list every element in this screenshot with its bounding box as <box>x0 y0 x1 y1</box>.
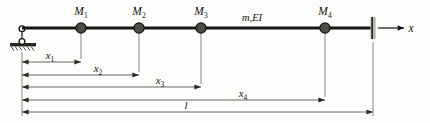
dimension-x4: x4 <box>22 87 325 103</box>
dimension-label-x2-subscript: 2 <box>99 68 103 77</box>
dimension-arrow-left-x1 <box>22 60 29 65</box>
dimension-x2: x2 <box>22 62 139 78</box>
dimension-label-x3-subscript: 3 <box>161 80 165 89</box>
dimension-label-x1-subscript: 1 <box>51 55 55 64</box>
mass-label-1-subscript: 1 <box>84 11 88 20</box>
dimension-x1: x1 <box>22 49 81 65</box>
dimension-arrow-right-x2 <box>132 73 139 78</box>
dimension-arrow-right-x1 <box>74 60 81 65</box>
dimension-x3: x3 <box>22 74 201 90</box>
dimension-label-x4-subscript: 4 <box>244 93 248 102</box>
lower-roller-circle <box>19 39 25 45</box>
diagram-canvas: x m,EI M1 M2 M3 <box>0 0 430 123</box>
mass-circle-1 <box>76 23 86 33</box>
ground-hatching <box>11 46 34 50</box>
dimension-arrow-left-x4 <box>22 98 29 103</box>
mass-node-3: M3 <box>193 5 208 84</box>
mass-circle-4 <box>320 23 330 33</box>
dimension-label-l: l <box>184 99 187 111</box>
right-support-fixed-wall <box>371 17 376 39</box>
dimension-label-x1: x1 <box>45 49 55 64</box>
dimension-arrow-right-x4 <box>318 98 325 103</box>
mass-circle-3 <box>196 23 206 33</box>
mass-node-1: M1 <box>73 5 88 59</box>
dimension-label-x3: x3 <box>155 74 165 89</box>
mass-label-4-subscript: 4 <box>328 11 332 20</box>
beam-property-label: m,EI <box>242 12 263 23</box>
mass-circle-2 <box>134 23 144 33</box>
mass-node-2: M2 <box>131 5 146 72</box>
dimension-arrow-right-x3 <box>194 85 201 90</box>
x-axis-arrow <box>378 25 404 30</box>
mass-label-4: M4 <box>317 5 332 20</box>
dimension-arrow-right-l <box>366 110 373 115</box>
mass-label-3-subscript: 3 <box>204 11 208 20</box>
beam-diagram-figure: x m,EI M1 M2 M3 <box>0 0 430 123</box>
x-axis-label: x <box>407 22 414 34</box>
mass-label-1: M1 <box>73 5 88 20</box>
x-axis-arrowhead <box>398 25 404 30</box>
wall-face <box>371 17 376 39</box>
mass-label-3: M3 <box>193 5 208 20</box>
mass-label-2-subscript: 2 <box>142 11 146 20</box>
dimension-arrow-left-l <box>22 110 29 115</box>
dimension-arrow-left-x2 <box>22 73 29 78</box>
mass-node-4: M4 <box>317 5 332 97</box>
dimension-label-x2: x2 <box>93 62 103 77</box>
dimension-arrow-left-x3 <box>22 85 29 90</box>
dimension-label-x4: x4 <box>238 87 248 102</box>
mass-label-2: M2 <box>131 5 146 20</box>
left-support-pin-roller <box>10 26 36 51</box>
